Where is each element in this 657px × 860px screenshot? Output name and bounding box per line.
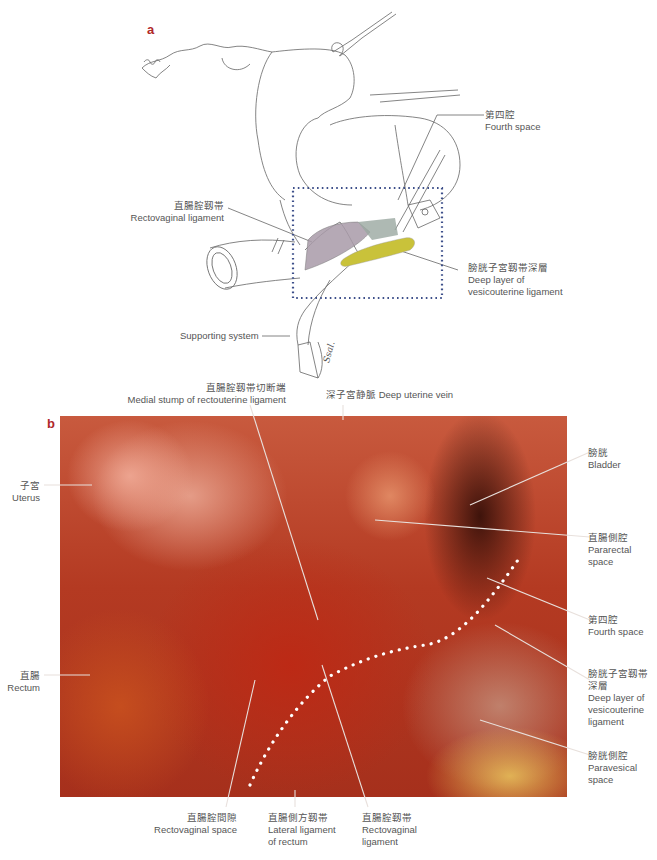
label-b-paravesical-space: 膀胱側腔 Paravesical space — [588, 750, 637, 786]
label-b-deep-layer: 膀胱子宮靱帯 深層 Deep layer of vesicouterine li… — [588, 668, 648, 728]
label-b-bladder: 膀胱 Bladder — [588, 447, 621, 471]
dotted-boundary-line — [250, 560, 518, 785]
label-b-lateral-ligament: 直腸側方靱帯 Lateral ligament of rectum — [268, 812, 336, 848]
label-b-fourth-space: 第四腔 Fourth space — [588, 614, 643, 638]
label-b-uterus: 子宮 Uterus — [0, 480, 40, 504]
label-b-rectovaginal-space: 直腸腟間隙 Rectovaginal space — [145, 812, 237, 836]
label-b-pararectal-space: 直腸側腔 Pararectal space — [588, 532, 631, 568]
label-b-rectum: 直腸 Rectum — [0, 670, 40, 694]
label-b-rectovaginal-ligament: 直腸腟靱帯 Rectovaginal ligament — [362, 812, 417, 848]
photo-overlay — [0, 0, 657, 860]
